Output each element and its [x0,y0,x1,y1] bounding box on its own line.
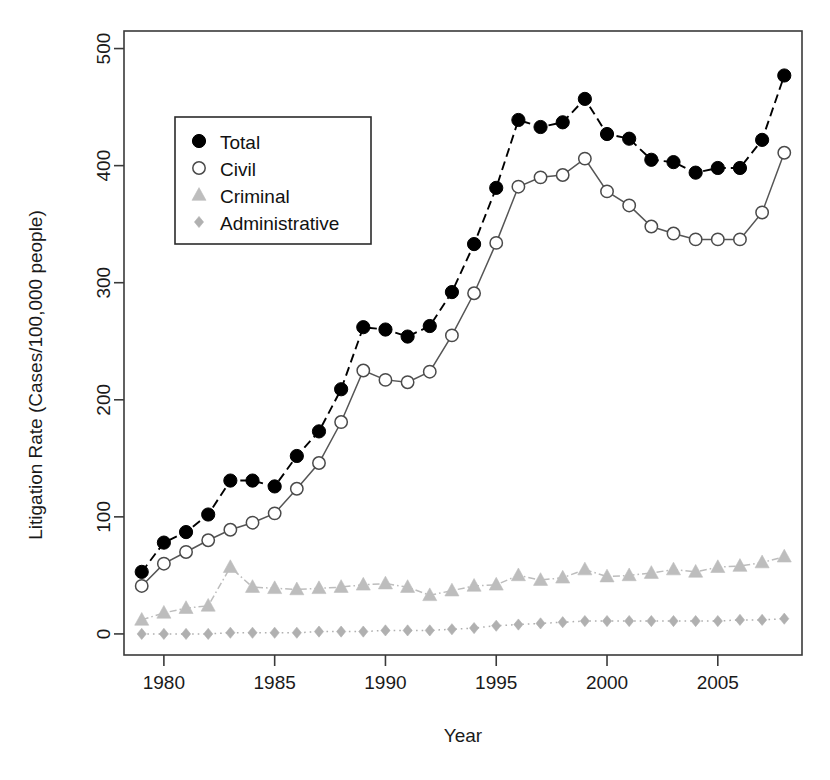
chart-canvas: Litigation Rate (Cases/100,000 people) Y… [0,0,830,780]
y-tick-label: 500 [94,33,115,65]
data-point-marker [179,601,193,614]
y-tick-label: 300 [94,267,115,299]
data-point-marker [580,615,589,626]
data-point-marker [711,560,725,573]
data-point-marker [445,583,459,596]
data-point-marker [645,153,658,166]
data-point-marker [468,287,480,299]
data-point-marker [337,626,346,637]
y-tick-label: 400 [94,150,115,182]
data-point-marker [356,577,370,590]
data-point-marker [223,560,237,573]
data-point-marker [689,233,701,245]
data-point-marker [734,233,746,245]
y-axis-ticks: 0100200300400500 [94,33,125,640]
data-point-marker [536,618,545,629]
data-point-marker [381,625,390,636]
data-point-marker [268,480,281,493]
data-point-marker [291,483,303,495]
data-point-marker [691,615,700,626]
data-point-marker [579,152,591,164]
data-point-marker [312,581,326,594]
data-point-marker [179,525,192,538]
data-point-marker [135,565,148,578]
x-tick-label: 1990 [364,672,406,693]
data-point-marker [224,474,237,487]
data-point-marker [645,220,657,232]
data-point-marker [578,562,592,575]
data-point-marker [137,628,146,639]
x-tick-label: 2000 [586,672,628,693]
data-point-marker [780,613,789,624]
data-point-marker [667,156,680,169]
data-point-marker [157,536,170,549]
x-tick-label: 1980 [143,672,185,693]
data-point-marker [733,161,746,174]
data-point-marker [158,557,170,569]
data-point-marker [512,181,524,193]
data-point-marker [735,614,744,625]
data-point-marker [600,127,613,140]
data-point-marker [755,555,769,568]
data-point-marker [758,614,767,625]
data-point-marker [623,199,635,211]
x-tick-label: 1985 [254,672,296,693]
data-point-marker [181,628,190,639]
y-axis-title: Litigation Rate (Cases/100,000 people) [25,210,46,540]
data-point-marker [157,605,171,618]
data-point-marker [335,416,347,428]
data-point-marker [403,625,412,636]
data-point-marker [756,133,769,146]
data-point-marker [379,323,392,336]
data-point-marker [647,615,656,626]
data-point-marker [268,507,280,519]
data-point-marker [226,627,235,638]
legend-label: Total [220,132,260,153]
data-point-marker [423,319,436,332]
data-point-marker [180,546,192,558]
data-point-marker [312,425,325,438]
legend-label: Administrative [220,213,339,234]
y-tick-label: 0 [94,629,115,640]
data-point-marker [534,120,547,133]
data-point-marker [644,566,658,579]
series-markers-administrative [137,613,789,639]
data-point-marker [558,617,567,628]
series-line-criminal [142,557,785,620]
x-axis-title-group: Year [444,725,483,746]
data-point-marker [447,624,456,635]
y-axis-title-group: Litigation Rate (Cases/100,000 people) [25,210,46,540]
data-point-marker [556,116,569,129]
data-point-marker [245,580,259,593]
data-point-marker [136,580,148,592]
data-point-marker [666,562,680,575]
legend-label: Criminal [220,186,290,207]
data-point-marker [401,330,414,343]
data-point-marker [601,185,613,197]
data-point-marker [379,374,391,386]
y-tick-label: 100 [94,501,115,533]
data-point-marker [778,69,791,82]
data-point-marker [490,181,503,194]
data-point-marker [511,568,525,581]
data-point-marker [445,285,458,298]
data-point-marker [248,627,257,638]
data-point-marker [357,364,369,376]
data-point-marker [514,619,523,630]
data-point-marker [357,321,370,334]
data-point-marker [378,576,392,589]
data-point-marker [270,627,279,638]
x-tick-label: 2005 [697,672,739,693]
data-point-marker [290,449,303,462]
legend-label: Civil [220,159,256,180]
data-point-marker [667,227,679,239]
data-point-marker [359,626,368,637]
data-point-marker [689,166,702,179]
data-point-marker [490,237,502,249]
data-point-marker [712,233,724,245]
data-point-marker [557,169,569,181]
data-point-marker [467,579,481,592]
chart-legend: TotalCivilCriminalAdministrative [175,117,371,244]
y-tick-label: 200 [94,384,115,416]
data-point-marker [202,534,214,546]
